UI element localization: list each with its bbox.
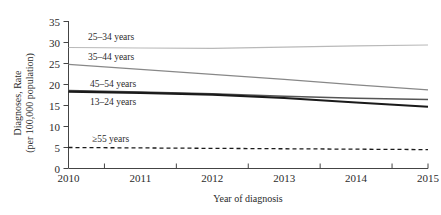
series-inline-labels: 25–34 years35–44 years45–54 years13–24 y…: [88, 32, 136, 144]
series-label-2: 45–54 years: [90, 79, 136, 89]
x-axis-title: Year of diagnosis: [213, 193, 283, 204]
chart-svg: Diagnoses, Rate (per 100,000 population)…: [0, 0, 441, 215]
y-tick-label: 20: [49, 79, 61, 91]
series-line-4: [69, 148, 429, 150]
y-tick-label: 10: [49, 121, 61, 133]
series-label-3: 13–24 years: [90, 97, 136, 107]
series-line-0: [69, 45, 429, 48]
y-axis-title-line2: (per 100,000 population): [24, 53, 36, 153]
line-chart: Diagnoses, Rate (per 100,000 population)…: [0, 0, 441, 215]
x-tick-label: 2014: [345, 172, 368, 184]
x-tick-label: 2015: [417, 172, 440, 184]
y-tick-label: 35: [49, 16, 61, 28]
series-label-4: ≥55 years: [92, 134, 129, 144]
series-label-1: 35–44 years: [88, 52, 134, 62]
y-tick-label: 15: [49, 100, 61, 112]
y-tick-label: 5: [55, 142, 61, 154]
x-tick-label: 2011: [130, 172, 152, 184]
series-label-0: 25–34 years: [88, 32, 134, 42]
y-tick-label: 25: [49, 58, 61, 70]
x-tick-label: 2010: [58, 172, 81, 184]
y-axis-title-line1: Diagnoses, Rate: [12, 70, 23, 136]
x-axis-ticks: 201020112012201320142015: [58, 164, 440, 185]
x-tick-label: 2012: [201, 172, 223, 184]
y-tick-label: 30: [49, 37, 61, 49]
y-axis-ticks: 05101520253035: [49, 16, 69, 175]
x-tick-label: 2013: [273, 172, 296, 184]
